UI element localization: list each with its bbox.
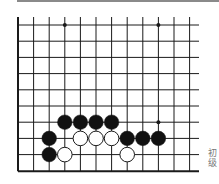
white-stone — [73, 131, 88, 146]
white-stone — [58, 147, 73, 162]
grid-lines — [18, 17, 199, 171]
level-caption: 初 级 — [208, 148, 219, 168]
star-point — [156, 23, 160, 27]
black-stone — [42, 131, 57, 146]
white-stone — [120, 147, 135, 162]
black-stone — [73, 115, 88, 130]
black-stone — [151, 131, 166, 146]
white-stone — [104, 131, 119, 146]
white-stone — [89, 131, 104, 146]
go-board — [0, 0, 219, 184]
black-stone — [136, 131, 151, 146]
star-point — [156, 120, 160, 124]
black-stone — [120, 131, 135, 146]
black-stone — [89, 115, 104, 130]
caption-line-1: 初 — [208, 148, 219, 158]
star-point — [63, 23, 67, 27]
black-stone — [104, 115, 119, 130]
black-stone — [58, 115, 73, 130]
caption-line-2: 级 — [208, 158, 219, 168]
black-stone — [42, 147, 57, 162]
